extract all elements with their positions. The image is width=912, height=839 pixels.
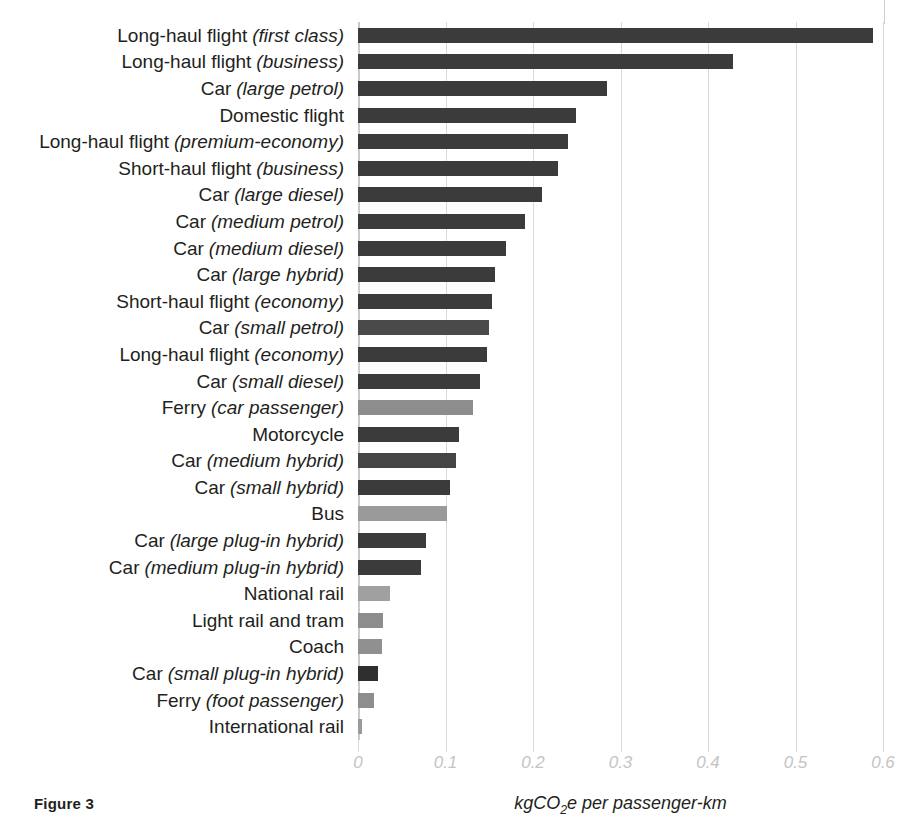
bar (358, 453, 456, 468)
bar (358, 480, 450, 495)
category-label-main: Domestic flight (219, 106, 344, 125)
category-label: Long-haul flight(economy) (0, 341, 352, 368)
bar-row (358, 394, 883, 421)
bar-row (358, 155, 883, 182)
category-axis-labels: Long-haul flight(first class)Long-haul f… (0, 22, 352, 740)
category-label: Light rail and tram (0, 607, 352, 634)
bar-series (358, 22, 883, 740)
category-label-main: Car (173, 239, 204, 258)
bar-row (358, 554, 883, 581)
category-label-main: National rail (244, 584, 344, 603)
category-label-qualifier: (medium diesel) (209, 239, 344, 258)
bar (358, 54, 733, 69)
gridline-0.6 (883, 22, 884, 740)
category-label-main: Long-haul flight (119, 345, 249, 364)
category-label-qualifier: (premium-economy) (174, 132, 344, 151)
category-label-main: Car (109, 558, 140, 577)
bar (358, 134, 568, 149)
category-label-main: Short-haul flight (116, 292, 249, 311)
bar (358, 28, 873, 43)
category-label-main: Car (199, 185, 230, 204)
bar-row (358, 315, 883, 342)
category-label-qualifier: (small hybrid) (230, 478, 344, 497)
bar-row (358, 75, 883, 102)
category-label-main: Ferry (156, 691, 200, 710)
category-label: Car(large plug-in hybrid) (0, 527, 352, 554)
category-label: Car(small plug-in hybrid) (0, 660, 352, 687)
x-tick (446, 740, 447, 752)
bar-row (358, 501, 883, 528)
category-label-qualifier: (economy) (254, 292, 344, 311)
bar (358, 666, 378, 681)
category-label-main: Long-haul flight (121, 52, 251, 71)
x-tick-label: 0.6 (871, 753, 895, 773)
x-tick-label: 0 (353, 753, 362, 773)
category-label-main: Car (197, 372, 228, 391)
category-label: Car(medium diesel) (0, 235, 352, 262)
category-label: Long-haul flight(first class) (0, 22, 352, 49)
category-label: Ferry(car passenger) (0, 394, 352, 421)
bar-row (358, 261, 883, 288)
category-label-main: Car (199, 318, 230, 337)
bar (358, 108, 576, 123)
bar-row (358, 607, 883, 634)
category-label-qualifier: (small diesel) (232, 372, 344, 391)
bar-row (358, 634, 883, 661)
category-label-main: Car (175, 212, 206, 231)
category-label-qualifier: (large plug-in hybrid) (170, 531, 344, 550)
x-tick (621, 740, 622, 752)
plot-area (358, 22, 883, 740)
category-label-qualifier: (car passenger) (211, 398, 344, 417)
category-label: Car(large diesel) (0, 182, 352, 209)
bar-row (358, 341, 883, 368)
x-tick-label: 0.1 (434, 753, 458, 773)
bar (358, 586, 390, 601)
bar-row (358, 713, 883, 740)
category-label-qualifier: (large petrol) (236, 79, 344, 98)
bar (358, 400, 473, 415)
category-label-main: Light rail and tram (192, 611, 344, 630)
category-label: Motorcycle (0, 421, 352, 448)
category-label-main: Coach (289, 637, 344, 656)
category-label-qualifier: (foot passenger) (206, 691, 344, 710)
category-label: Car(large hybrid) (0, 261, 352, 288)
category-label-main: Long-haul flight (117, 26, 247, 45)
bar-row (358, 527, 883, 554)
category-label-main: Short-haul flight (118, 159, 251, 178)
category-label-qualifier: (small plug-in hybrid) (168, 664, 344, 683)
bar-row (358, 128, 883, 155)
bar (358, 267, 495, 282)
bar-row (358, 49, 883, 76)
bar-row (358, 368, 883, 395)
category-label-main: Car (197, 265, 228, 284)
x-tick-label: 0.3 (609, 753, 633, 773)
category-label-qualifier: (medium plug-in hybrid) (144, 558, 344, 577)
x-tick-label: 0.5 (784, 753, 808, 773)
category-label-main: Bus (311, 504, 344, 523)
category-label-qualifier: (economy) (254, 345, 344, 364)
bar-row (358, 474, 883, 501)
bar (358, 506, 447, 521)
x-tick-label: 0.2 (521, 753, 545, 773)
bar (358, 374, 480, 389)
bar (358, 187, 542, 202)
category-label: International rail (0, 713, 352, 740)
bar-row (358, 580, 883, 607)
bar-row (358, 660, 883, 687)
category-label: National rail (0, 580, 352, 607)
category-label: Long-haul flight(business) (0, 49, 352, 76)
category-label: Car(small hybrid) (0, 474, 352, 501)
category-label: Short-haul flight(economy) (0, 288, 352, 315)
bar (358, 613, 383, 628)
category-label: Long-haul flight(premium-economy) (0, 128, 352, 155)
category-label: Ferry(foot passenger) (0, 687, 352, 714)
bar-row (358, 102, 883, 129)
bar-row (358, 421, 883, 448)
category-label-main: Car (194, 478, 225, 497)
category-label: Car(small petrol) (0, 315, 352, 342)
bar-row (358, 208, 883, 235)
bar-row (358, 182, 883, 209)
bar (358, 693, 374, 708)
category-label: Domestic flight (0, 102, 352, 129)
x-axis-title: kgCO2e per passenger-km (358, 793, 883, 817)
